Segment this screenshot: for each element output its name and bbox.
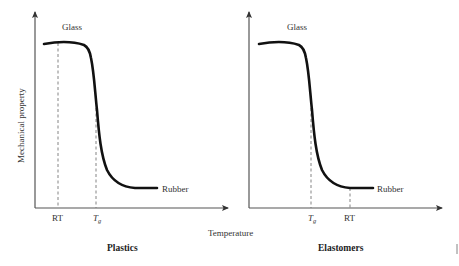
- y-axis-label: Mechanical property: [16, 88, 26, 163]
- plastics-panel: Glass Rubber RT Tg Plastics Mechanical p…: [16, 12, 228, 253]
- glass-label: Glass: [287, 22, 307, 32]
- glass-label: Glass: [62, 22, 82, 32]
- plastics-caption: Plastics: [107, 243, 138, 253]
- x-axis-label: Temperature: [208, 228, 253, 238]
- rubber-label: Rubber: [162, 184, 189, 194]
- tg-tick-label: Tg: [308, 213, 317, 224]
- tg-tick-label: Tg: [93, 213, 102, 224]
- elastomers-panel: Glass Rubber Tg RT Elastomers: [249, 12, 442, 253]
- property-curve: [44, 42, 157, 188]
- rt-tick-label: RT: [344, 213, 355, 223]
- elastomers-caption: Elastomers: [318, 243, 364, 253]
- rt-tick-label: RT: [52, 213, 63, 223]
- chart-figure: Glass Rubber RT Tg Plastics Mechanical p…: [0, 0, 459, 266]
- property-curve: [259, 42, 373, 188]
- rubber-label: Rubber: [377, 184, 404, 194]
